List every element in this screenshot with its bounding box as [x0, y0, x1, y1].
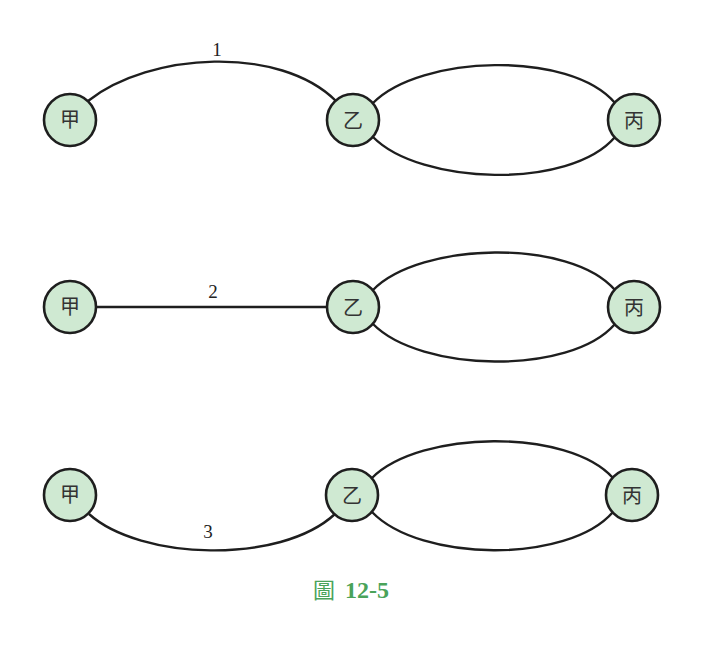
- lower-route-b-c: [372, 512, 613, 550]
- svg-text:丙: 丙: [624, 296, 644, 320]
- svg-text:丙: 丙: [624, 109, 644, 133]
- edge-label-2: 2: [208, 281, 218, 302]
- node-yi: 乙: [327, 94, 379, 146]
- svg-text:丙: 丙: [622, 484, 642, 508]
- figure-prefix: 圖: [313, 578, 335, 603]
- diagram-row-3: 3 甲 乙 丙: [44, 441, 658, 550]
- upper-route-b-c: [373, 65, 615, 103]
- upper-route-b-c: [372, 441, 613, 478]
- node-bing: 丙: [608, 281, 660, 333]
- diagram-row-1: 1 甲 乙 丙: [44, 39, 660, 175]
- node-jia: 甲: [44, 281, 96, 333]
- diagram-row-2: 2 甲 乙 丙: [44, 252, 660, 361]
- path-diagram: 1 甲 乙 丙 2 甲 乙 丙: [0, 0, 702, 645]
- node-jia: 甲: [44, 94, 96, 146]
- node-bing: 丙: [606, 469, 658, 521]
- svg-text:乙: 乙: [343, 296, 363, 320]
- node-jia: 甲: [44, 469, 96, 521]
- route-1-arc: [88, 62, 336, 101]
- lower-route-b-c: [373, 324, 615, 362]
- node-yi: 乙: [326, 469, 378, 521]
- svg-text:乙: 乙: [342, 484, 362, 508]
- node-yi: 乙: [327, 281, 379, 333]
- figure-caption: 圖12-5: [0, 572, 702, 604]
- svg-text:甲: 甲: [60, 295, 80, 319]
- lower-route-b-c: [373, 137, 615, 175]
- svg-text:乙: 乙: [343, 109, 363, 133]
- edge-label-3: 3: [203, 521, 213, 542]
- edge-label-1: 1: [212, 39, 222, 60]
- svg-text:甲: 甲: [60, 108, 80, 132]
- svg-text:甲: 甲: [60, 483, 80, 507]
- node-bing: 丙: [608, 94, 660, 146]
- upper-route-b-c: [373, 252, 615, 290]
- figure-number: 12-5: [345, 577, 389, 603]
